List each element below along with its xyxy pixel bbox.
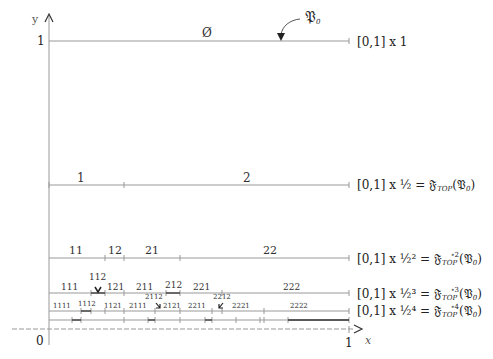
segment-1121: 1121 [104, 303, 122, 310]
empty-set-label: Ø [202, 27, 212, 39]
x-axis-label: x [365, 335, 371, 346]
segment-21: 21 [145, 245, 159, 256]
pointer-arrow-icon [281, 19, 300, 35]
row-label-eighth: [0,1] x ½³ = 𝔉TOP∘3(𝔓0) [357, 287, 482, 302]
row-label-quarter: [0,1] x ½² = 𝔉TOP∘2(𝔓0) [357, 252, 482, 267]
arrow-112-icon [95, 287, 101, 292]
segment-1111: 1111 [53, 303, 71, 310]
segment-221: 221 [193, 283, 210, 292]
segment-1: 1 [77, 172, 85, 184]
segment-2112: 2112 [145, 294, 163, 301]
y-one-label: 1 [37, 35, 45, 47]
row-label-1: [0,1] x 1 [357, 36, 407, 48]
pointer-arrowhead-icon [277, 33, 285, 41]
segment-1112: 1112 [78, 301, 96, 308]
origin-label: 0 [36, 335, 44, 347]
segment-2111: 2111 [129, 303, 147, 310]
x-axis-arrow-icon [354, 325, 362, 333]
y-axis-label: y [32, 14, 38, 25]
segment-121: 121 [107, 283, 124, 292]
segment-22: 22 [263, 245, 277, 256]
segment-2: 2 [243, 172, 251, 184]
segment-2211: 2211 [188, 303, 206, 310]
arrow-2212-icon [219, 303, 223, 308]
segment-212: 212 [165, 281, 182, 290]
x-one-label: 1 [345, 337, 353, 349]
p0-pointer-label: 𝔓0 [305, 10, 320, 26]
segment-2121: 2121 [163, 303, 181, 310]
segment-112: 112 [89, 273, 106, 282]
segment-2212: 2212 [213, 294, 231, 301]
segment-111: 111 [61, 283, 78, 292]
segment-2222: 2222 [290, 303, 308, 310]
segment-2221: 2221 [232, 303, 250, 310]
segment-211: 211 [136, 283, 153, 292]
segment-222: 222 [283, 283, 300, 292]
segment-12: 12 [108, 245, 122, 256]
segment-11: 11 [69, 245, 83, 256]
arrow-2112-icon [156, 303, 160, 308]
row-label-sixteenth: [0,1] x ½⁴ = 𝔉TOP∘4(𝔓0) [357, 304, 482, 319]
row-label-half: [0,1] x ½ = 𝔉TOP(𝔓0) [357, 179, 475, 193]
